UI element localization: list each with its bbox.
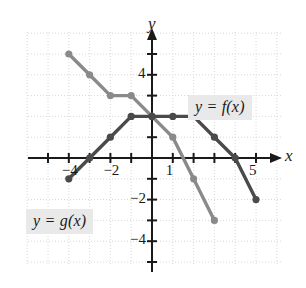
data-point — [211, 217, 218, 224]
data-point — [232, 154, 239, 161]
axes — [28, 28, 282, 272]
data-point — [107, 92, 114, 99]
data-point — [86, 71, 93, 78]
y-axis-label: y — [148, 14, 156, 34]
x-tick-label-1: −2 — [103, 162, 119, 179]
x-axis-label: x — [285, 146, 293, 166]
y-tick-label-0: 4 — [138, 65, 146, 82]
data-point — [107, 134, 114, 141]
x-tick-label-2: 1 — [166, 162, 174, 179]
data-point — [169, 134, 176, 141]
x-tick-label-3: 5 — [249, 162, 257, 179]
graph-figure: y x y = f(x) y = g(x) −4−2154−2−4 — [0, 0, 306, 288]
f-curve-callout: y = f(x) — [188, 95, 252, 120]
y-tick-label-1: −2 — [130, 190, 146, 207]
y-tick-label-2: −4 — [130, 231, 146, 248]
data-point — [211, 134, 218, 141]
data-point — [190, 175, 197, 182]
data-point — [65, 50, 72, 57]
data-point — [128, 113, 135, 120]
data-point — [128, 92, 135, 99]
x-tick-label-0: −4 — [62, 162, 78, 179]
data-point — [86, 154, 93, 161]
coordinate-plane — [0, 0, 306, 288]
g-curve-callout: y = g(x) — [26, 209, 93, 234]
data-point — [148, 113, 155, 120]
data-point — [169, 113, 176, 120]
data-point — [252, 196, 259, 203]
